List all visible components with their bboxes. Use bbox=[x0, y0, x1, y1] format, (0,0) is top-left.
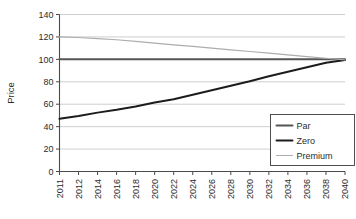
y-tick-label: 60 bbox=[43, 99, 53, 109]
x-tick-label: 2028 bbox=[226, 179, 236, 199]
y-tick-label: 0 bbox=[48, 167, 53, 177]
x-tick-label: 2014 bbox=[93, 179, 103, 199]
x-tick-label: 2030 bbox=[245, 179, 255, 199]
line-chart: 020406080100120140 201120122014201620182… bbox=[0, 0, 356, 219]
x-tick-label: 2034 bbox=[283, 179, 293, 199]
x-tick-label: 2026 bbox=[207, 179, 217, 199]
x-tick-label: 2038 bbox=[321, 179, 331, 199]
y-tick-labels-group: 020406080100120140 bbox=[38, 10, 53, 177]
series-line-premium bbox=[60, 37, 346, 60]
x-tick-label: 2024 bbox=[188, 179, 198, 199]
legend-label-zero[interactable]: Zero bbox=[297, 136, 316, 146]
x-tick-label: 2032 bbox=[264, 179, 274, 199]
y-axis-title-group: Price bbox=[5, 82, 16, 104]
y-tick-label: 80 bbox=[43, 77, 53, 87]
series-line-zero bbox=[60, 60, 346, 119]
x-tick-label: 2012 bbox=[74, 179, 84, 199]
legend[interactable]: ParZeroPremium bbox=[271, 115, 355, 166]
legend-label-par[interactable]: Par bbox=[297, 121, 311, 131]
x-tick-label: 2011 bbox=[55, 179, 65, 198]
x-tick-label: 2018 bbox=[131, 179, 141, 199]
y-tick-label: 140 bbox=[38, 10, 53, 20]
x-tick-label: 2036 bbox=[302, 179, 312, 199]
x-tick-label: 2040 bbox=[340, 179, 350, 199]
y-tick-label: 120 bbox=[38, 32, 53, 42]
chart-canvas: 020406080100120140 201120122014201620182… bbox=[0, 0, 356, 219]
series-lines-group bbox=[60, 37, 346, 119]
y-tick-label: 40 bbox=[43, 122, 53, 132]
x-tick-label: 2020 bbox=[150, 179, 160, 199]
y-axis-title: Price bbox=[5, 82, 16, 104]
x-tick-label: 2022 bbox=[169, 179, 179, 199]
x-tick-label: 2016 bbox=[112, 179, 122, 199]
y-tick-label: 20 bbox=[43, 144, 53, 154]
x-tick-labels-group: 2011201220142016201820202022202420262028… bbox=[55, 179, 351, 199]
y-tick-label: 100 bbox=[38, 55, 53, 65]
legend-label-premium[interactable]: Premium bbox=[297, 151, 333, 161]
